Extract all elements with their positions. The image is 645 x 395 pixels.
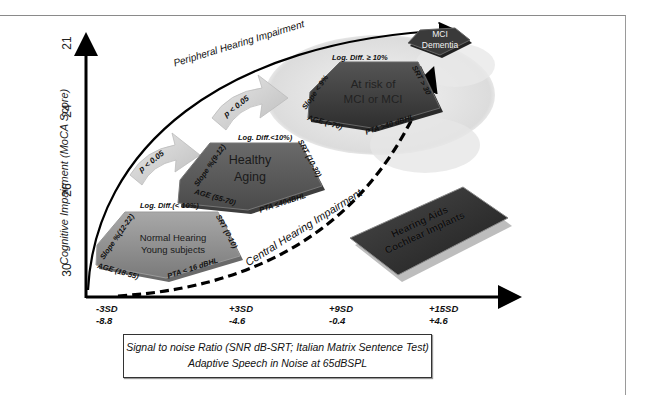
- stage-name-line: Young subjects: [128, 244, 218, 256]
- stage-normal-logdiff: Log. Diff.(< 10%): [140, 201, 199, 210]
- y-tick-26: 26: [60, 183, 74, 196]
- stage-name-line: MCI: [410, 29, 470, 40]
- x-axis-caption: Signal to noise Ratio (SNR dB-SRT; Itali…: [123, 334, 432, 378]
- stage-at-risk-logdiff: Log. Diff. ≥ 10%: [332, 53, 388, 62]
- y-tick-24: 24: [60, 104, 74, 117]
- stage-healthy-name: Healthy Aging: [210, 152, 290, 186]
- stage-name-line: Normal Hearing: [128, 232, 218, 244]
- x-tick-value: -4.6: [229, 315, 253, 327]
- x-tick-sd: -3SD: [96, 303, 118, 315]
- stage-healthy-logdiff: Log. Diff.<10%): [238, 133, 292, 142]
- y-tick-21: 21: [60, 36, 74, 49]
- x-tick-value: -0.4: [329, 315, 353, 327]
- caption-line-1: Signal to noise Ratio (SNR dB-SRT; Itali…: [124, 339, 431, 355]
- stage-normal-name: Normal Hearing Young subjects: [128, 232, 218, 256]
- x-tick-1: -3SD -8.8: [96, 303, 118, 327]
- x-tick-4: +15SD +4.6: [429, 303, 458, 327]
- caption-line-2: Adaptive Speech in Noise at 65dBSPL: [124, 355, 431, 371]
- stage-at-risk-name: At risk of MCI or MCI: [333, 77, 413, 107]
- stage-dementia-name: MCI Dementia: [410, 29, 470, 51]
- y-tick-30: 30: [60, 263, 74, 276]
- stage-name-line: At risk of: [333, 77, 413, 92]
- x-tick-value: -8.8: [96, 315, 118, 327]
- x-tick-2: +3SD -4.6: [229, 303, 253, 327]
- stage-name-line: MCI or MCI: [333, 92, 413, 107]
- x-tick-value: +4.6: [429, 315, 458, 327]
- stage-name-line: Dementia: [410, 40, 470, 51]
- x-tick-3: +9SD -0.4: [329, 303, 353, 327]
- x-tick-sd: +9SD: [329, 303, 353, 315]
- x-tick-sd: +15SD: [429, 303, 458, 315]
- stage-name-line: Aging: [210, 169, 290, 186]
- x-tick-sd: +3SD: [229, 303, 253, 315]
